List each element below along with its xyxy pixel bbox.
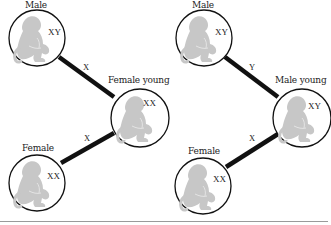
node-label: Male [192,0,214,10]
node-label: Male young [275,75,327,85]
node-male-left [9,10,65,66]
node-label: Female [188,146,220,156]
node-male-young [273,89,331,147]
inheritance-diagram: Male XY X Female young XX X Female XX Ma… [0,0,331,225]
chromosome-label: XY [215,27,228,37]
chromosome-label: XY [48,27,61,37]
chromosome-label: XY [308,101,321,111]
node-female-young [111,89,169,147]
bottom-divider [0,221,328,222]
node-label: Female [22,143,54,153]
chromosome-label: XX [47,171,60,181]
node-male-right [176,10,232,66]
node-female-left [9,155,65,211]
node-label: Female young [108,75,170,85]
node-label: Male [25,0,47,10]
link-label: X [83,62,89,72]
chromosome-label: XX [213,174,226,184]
link-label: X [84,133,90,143]
chromosome-label: XX [143,98,156,108]
node-female-right [175,158,231,214]
link-label: X [249,133,255,143]
link-label: Y [249,62,255,72]
